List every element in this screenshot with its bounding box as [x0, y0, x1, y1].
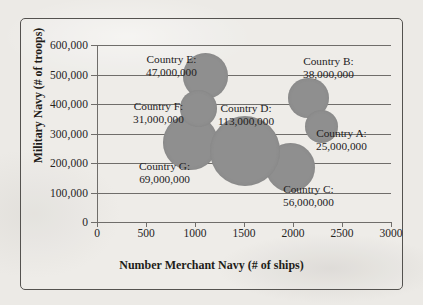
- y-tick-label-400000: 400,000: [16, 98, 88, 110]
- data-label-country-a-name: Country A:: [316, 127, 367, 140]
- data-label-country-b: Country B: 38,000,000: [303, 55, 354, 81]
- y-tick-mark-600000: [91, 45, 97, 46]
- y-tick-label-300000: 300,000: [16, 128, 88, 140]
- y-tick-label-500000: 500,000: [16, 69, 88, 81]
- data-label-country-b-name: Country B:: [303, 55, 354, 68]
- data-label-country-a: Country A: 25,000,000: [316, 127, 367, 153]
- data-label-country-e-value: 47,000,000: [146, 66, 197, 79]
- data-label-country-g: Country G: 69,000,000: [139, 160, 190, 186]
- data-label-country-d-value: 113,000,000: [218, 115, 274, 128]
- y-axis-title: Military Navy (# of troops): [31, 0, 46, 196]
- gridline-100000: [97, 193, 391, 194]
- y-tick-mark-500000: [91, 75, 97, 76]
- data-label-country-c-value: 56,000,000: [283, 196, 334, 209]
- x-axis-title: Number Merchant Navy (# of ships): [0, 258, 423, 273]
- data-label-country-d: Country D: 113,000,000: [218, 102, 274, 128]
- y-tick-mark-400000: [91, 104, 97, 105]
- x-tick-label-3000: 3000: [361, 227, 421, 239]
- bubble-country-f[interactable]: [180, 90, 217, 127]
- data-label-country-f: Country F: 31,000,000: [133, 100, 184, 126]
- data-label-country-b-value: 38,000,000: [303, 68, 354, 81]
- data-label-country-g-name: Country G:: [139, 160, 190, 173]
- data-label-country-f-value: 31,000,000: [133, 113, 184, 126]
- data-label-country-e: Country E: 47,000,000: [146, 53, 197, 79]
- data-label-country-g-value: 69,000,000: [139, 173, 190, 186]
- data-label-country-c: Country C: 56,000,000: [283, 183, 334, 209]
- data-label-country-f-name: Country F:: [133, 100, 184, 113]
- data-label-country-d-name: Country D:: [218, 102, 274, 115]
- data-label-country-e-name: Country E:: [146, 53, 197, 66]
- y-tick-label-200000: 200,000: [16, 157, 88, 169]
- y-tick-mark-200000: [91, 163, 97, 164]
- y-tick-label-600000: 600,000: [16, 39, 88, 51]
- y-tick-label-100000: 100,000: [16, 187, 88, 199]
- bubble-chart-figure: 600,000 500,000 400,000 300,000 200,000 …: [0, 0, 423, 305]
- y-tick-mark-100000: [91, 193, 97, 194]
- data-label-country-a-value: 25,000,000: [316, 140, 367, 153]
- y-tick-mark-300000: [91, 134, 97, 135]
- gridline-600000: [97, 45, 391, 46]
- data-label-country-c-name: Country C:: [283, 183, 334, 196]
